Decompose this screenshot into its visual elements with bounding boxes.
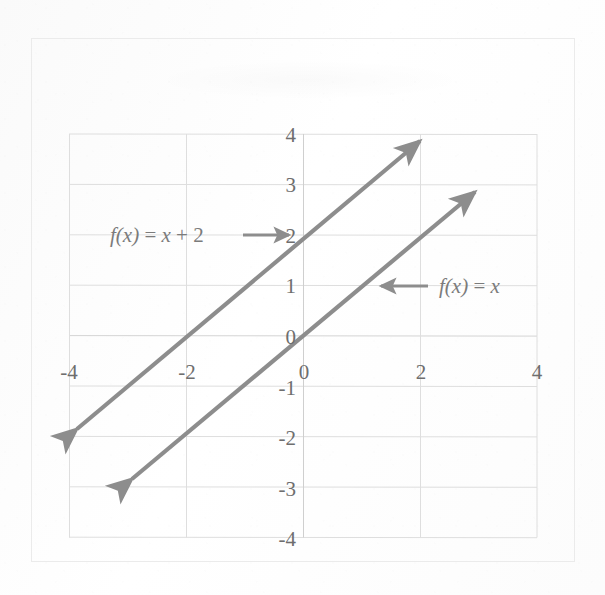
annotation-label-x: f(x) = x bbox=[439, 274, 501, 298]
fn2-equals: = bbox=[468, 274, 490, 298]
annotation-f-of-x-plus-2: f(x) = x + 2 bbox=[110, 223, 289, 247]
x-tick-neg4: -4 bbox=[60, 360, 78, 384]
y-tick-neg2: -2 bbox=[279, 426, 297, 450]
annotation-f-of-x: f(x) = x bbox=[381, 274, 501, 298]
annotation-label-x-plus-2: f(x) = x + 2 bbox=[110, 223, 204, 247]
y-tick-3: 3 bbox=[286, 173, 297, 197]
graph-figure: 4 3 2 1 0 -1 -2 -3 -4 -4 -2 0 2 4 f(x) =… bbox=[0, 0, 605, 595]
y-tick-4: 4 bbox=[286, 123, 297, 147]
x-tick-0: 0 bbox=[299, 360, 310, 384]
y-axis-tick-labels: 4 3 2 1 0 -1 -2 -3 -4 bbox=[279, 123, 297, 551]
y-tick-1: 1 bbox=[286, 274, 297, 298]
graph-svg: 4 3 2 1 0 -1 -2 -3 -4 -4 -2 0 2 4 f(x) =… bbox=[0, 0, 605, 595]
x-tick-neg2: -2 bbox=[178, 360, 196, 384]
x-tick-2: 2 bbox=[416, 360, 427, 384]
y-tick-0: 0 bbox=[286, 325, 297, 349]
fn-const: 2 bbox=[193, 223, 204, 247]
x-tick-4: 4 bbox=[532, 360, 543, 384]
fn-close-paren: ) bbox=[131, 223, 139, 247]
figure-page: 4 3 2 1 0 -1 -2 -3 -4 -4 -2 0 2 4 f(x) =… bbox=[0, 0, 605, 595]
fn2-close-paren: ) bbox=[460, 274, 468, 298]
fn2-rhs-x: x bbox=[490, 274, 501, 298]
y-tick-neg1: -1 bbox=[279, 376, 297, 400]
fn-plus: + bbox=[171, 223, 193, 247]
fn-equals: = bbox=[139, 223, 161, 247]
y-tick-neg4: -4 bbox=[279, 527, 297, 551]
y-tick-neg3: -3 bbox=[279, 477, 297, 501]
